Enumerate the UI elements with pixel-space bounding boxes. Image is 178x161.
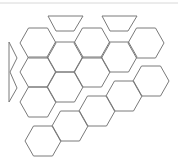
lower-hexagon-1 <box>133 66 169 96</box>
lower-hexagon-5 <box>25 126 61 156</box>
lower-hexagon-4 <box>52 111 88 141</box>
upper-hexagon-cluster <box>20 28 164 117</box>
hexagon-tiling-diagram <box>0 0 178 161</box>
upper-hexagon-6 <box>20 57 56 87</box>
trapezoid-group <box>48 16 137 31</box>
lower-hexagon-band <box>25 66 169 156</box>
upper-hexagon-4 <box>47 42 83 72</box>
trapezoid-2 <box>102 16 137 31</box>
upper-hexagon-9 <box>20 87 56 117</box>
upper-hexagon-7 <box>74 57 110 87</box>
upper-hexagon-2 <box>74 28 110 58</box>
upper-hexagon-8 <box>47 72 83 102</box>
upper-hexagon-5 <box>101 42 137 72</box>
left-zigzag-shape <box>9 42 17 102</box>
lower-hexagon-2 <box>106 81 142 111</box>
trapezoid-1 <box>48 16 83 31</box>
lower-hexagon-3 <box>79 96 115 126</box>
upper-hexagon-3 <box>128 28 164 58</box>
upper-hexagon-1 <box>20 28 56 58</box>
